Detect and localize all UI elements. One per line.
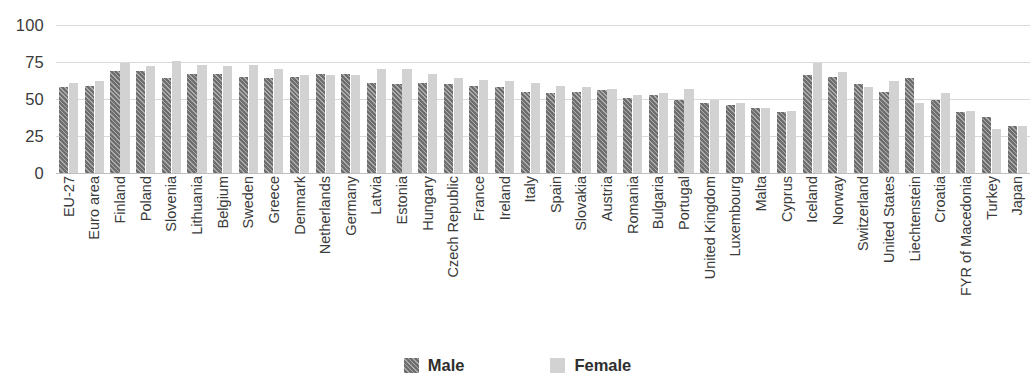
bar-female: [120, 63, 129, 173]
bar-male: [546, 93, 555, 173]
bar-group: [312, 25, 338, 173]
x-axis-tick-label: United Kingdom: [702, 176, 717, 279]
bar-group: [107, 25, 133, 173]
bar-male: [521, 92, 530, 173]
bar-female: [813, 63, 822, 173]
bar-female: [992, 129, 1001, 173]
x-axis-tick-label: Bulgaria: [651, 176, 666, 229]
x-axis-tick-label: Switzerland: [856, 176, 871, 251]
x-axis-tick-label: Denmark: [292, 176, 307, 235]
bar-female: [659, 93, 668, 173]
x-axis-tick-label: United States: [882, 176, 897, 263]
x-axis-tick-label: Netherlands: [318, 176, 333, 254]
x-axis-tick-label: Liechtenstein: [907, 176, 922, 261]
bar-group: [517, 25, 543, 173]
bar-group: [415, 25, 441, 173]
y-tick-label-50: 50: [25, 90, 44, 109]
bar-group: [979, 25, 1005, 173]
bar-male: [854, 84, 863, 173]
bar-group: [287, 25, 313, 173]
bar-group: [133, 25, 159, 173]
x-axis-tick-label: Iceland: [805, 176, 820, 223]
x-axis-tick-label: Lithuania: [190, 176, 205, 235]
bar-female: [274, 69, 283, 173]
bar-female: [223, 66, 232, 173]
bar-male: [879, 92, 888, 173]
bar-female: [787, 111, 796, 173]
bar-female: [941, 93, 950, 173]
bar-group: [902, 25, 928, 173]
bar-male: [982, 117, 991, 173]
x-axis-tick-label: Romania: [625, 176, 640, 234]
x-axis-tick-label: EU-27: [62, 176, 77, 217]
bar-male: [828, 77, 837, 173]
bar-group: [364, 25, 390, 173]
bar-male: [649, 95, 658, 173]
y-tick-label-0: 0: [35, 164, 44, 183]
bar-chart: 100 75 50 25 0 EU-27Euro areaFinlandPola…: [0, 0, 1035, 392]
bar-male: [392, 84, 401, 173]
bar-female: [428, 74, 437, 173]
bar-group: [697, 25, 723, 173]
bar-group: [594, 25, 620, 173]
bar-female: [966, 111, 975, 173]
bar-male: [290, 77, 299, 173]
bar-group: [492, 25, 518, 173]
x-axis-tick-label: Croatia: [933, 176, 948, 223]
bar-female: [736, 103, 745, 173]
bar-group: [1004, 25, 1030, 173]
x-axis-tick-label: Malta: [754, 176, 769, 211]
bar-male: [803, 75, 812, 173]
x-axis-tick-label: France: [472, 176, 487, 221]
bar-female: [454, 78, 463, 173]
bar-female: [633, 95, 642, 173]
x-axis-tick-label: Slovenia: [164, 176, 179, 232]
bar-male: [367, 83, 376, 173]
x-axis-tick-label: Portugal: [677, 176, 692, 230]
bar-male: [162, 78, 171, 173]
y-axis: 100 75 50 25 0: [0, 0, 56, 198]
bar-female: [505, 81, 514, 173]
x-axis-tick-label: Slovakia: [574, 176, 589, 231]
bar-group: [876, 25, 902, 173]
x-axis-tick-label: Turkey: [984, 176, 999, 220]
bar-male: [495, 87, 504, 173]
bar-male: [623, 98, 632, 173]
x-axis-tick-label: Belgium: [215, 176, 230, 228]
bar-male: [674, 100, 683, 173]
x-axis-tick-label: Hungary: [420, 176, 435, 231]
bar-female: [838, 72, 847, 173]
bar-group: [235, 25, 261, 173]
bar-female: [761, 108, 770, 173]
bar-group: [338, 25, 364, 173]
bar-female: [300, 75, 309, 173]
bar-female: [684, 89, 693, 173]
bar-male: [136, 71, 145, 173]
bar-group: [799, 25, 825, 173]
x-axis-tick-label: Sweden: [241, 176, 256, 228]
legend-item-female: Female: [550, 356, 631, 375]
y-tick-label-25: 25: [25, 127, 44, 146]
bar-male: [316, 74, 325, 173]
x-axis-tick-label: Spain: [549, 176, 564, 213]
x-axis-tick-label: Ireland: [497, 176, 512, 220]
bar-group: [82, 25, 108, 173]
bar-group: [389, 25, 415, 173]
bar-male: [264, 78, 273, 173]
bar-male: [213, 74, 222, 173]
bar-female: [95, 81, 104, 173]
bar-male: [239, 77, 248, 173]
bar-male: [110, 71, 119, 173]
bars-layer: [56, 25, 1030, 173]
bar-female: [710, 100, 719, 173]
bar-female: [864, 87, 873, 173]
bar-group: [56, 25, 82, 173]
bar-male: [726, 105, 735, 173]
bar-male: [700, 103, 709, 173]
bar-female: [351, 75, 360, 173]
bar-female: [197, 65, 206, 173]
bar-male: [572, 92, 581, 173]
bar-female: [146, 66, 155, 173]
bar-male: [59, 87, 68, 173]
bar-male: [751, 108, 760, 173]
